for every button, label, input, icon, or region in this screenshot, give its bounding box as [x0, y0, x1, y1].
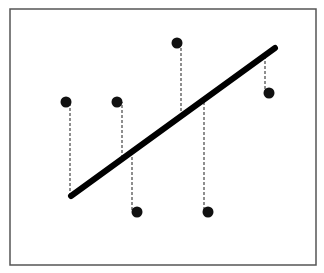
- data-point: [203, 207, 214, 218]
- data-point: [61, 97, 72, 108]
- data-point: [112, 97, 123, 108]
- data-point: [172, 38, 183, 49]
- regression-line: [71, 48, 275, 196]
- regression-residual-diagram: [0, 0, 324, 273]
- data-point: [132, 207, 143, 218]
- diagram-frame: [10, 9, 316, 265]
- data-point: [264, 88, 275, 99]
